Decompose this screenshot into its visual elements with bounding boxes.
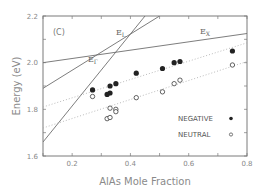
neutral-data-point — [178, 78, 182, 82]
negative-data-point — [230, 48, 235, 53]
curve-label-Γ: EΓ — [88, 55, 98, 65]
x-tick-label: 0.8 — [241, 160, 252, 168]
x-axis-title: AlAs Mole Fraction — [99, 176, 191, 187]
negative-data-point — [172, 60, 177, 65]
y-tick-label: 1.6 — [27, 153, 39, 161]
energy-vs-alas-chart: (C) AlAs Mole Fraction Energy (eV) NEGAT… — [0, 0, 265, 193]
negative-data-point — [134, 71, 139, 76]
neutral-data-point — [172, 81, 176, 85]
negative-data-point — [113, 81, 118, 86]
neutral-data-point — [160, 90, 164, 94]
neutral-data-point — [230, 63, 234, 67]
reference-lines — [43, 16, 247, 142]
negative-data-point — [90, 87, 95, 92]
curve-label-L: EL — [116, 28, 126, 38]
legend-markers — [229, 117, 233, 136]
negative-data-point — [160, 66, 165, 71]
neutral-data-point — [114, 109, 118, 113]
curve-label-subscript: X — [206, 30, 211, 37]
curve-label-X: EX — [200, 27, 211, 37]
curve-labels: EXELEΓ — [88, 27, 211, 65]
x-tick-label: 0.6 — [183, 160, 195, 168]
panel-label: (C) — [53, 28, 65, 37]
reference-line-L — [43, 16, 160, 88]
neutral-data-point — [108, 115, 112, 119]
legend-marker-negative — [229, 117, 233, 121]
fit-lines — [43, 43, 247, 128]
curve-label-subscript: Γ — [94, 58, 98, 65]
neutral-data-point — [90, 94, 94, 98]
y-tick-label: 2.0 — [27, 59, 38, 67]
negative-data-point — [177, 59, 182, 64]
y-tick-label: 1.8 — [27, 106, 38, 114]
legend-label-negative: NEGATIVE — [178, 115, 213, 123]
legend-marker-neutral — [229, 133, 232, 136]
reference-line-X — [43, 34, 247, 63]
neutral-data-point — [134, 95, 138, 99]
neutral-data-point — [108, 106, 112, 110]
data-points — [90, 48, 235, 120]
y-axis-title: Energy (eV) — [11, 56, 22, 115]
x-tick-label: 0.2 — [67, 160, 78, 168]
fit-line-negative — [43, 43, 247, 107]
plot-border — [43, 16, 247, 156]
y-tick-label: 2.2 — [27, 13, 38, 21]
negative-data-point — [107, 90, 112, 95]
x-tick-label: 0.4 — [125, 160, 137, 168]
curve-label-subscript: L — [122, 31, 126, 38]
legend-label-neutral: NEUTRAL — [178, 131, 210, 139]
negative-data-point — [107, 83, 112, 88]
plot-frame — [43, 16, 247, 156]
fit-line-neutral — [43, 62, 247, 129]
